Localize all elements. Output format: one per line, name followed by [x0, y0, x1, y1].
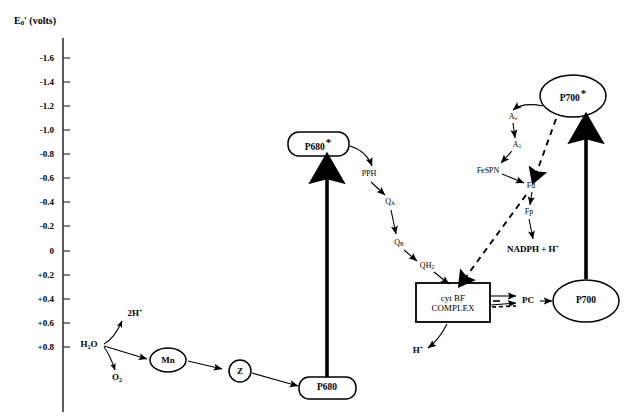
axis-title-text: E	[14, 15, 21, 26]
cyclic-flow-dashed-arrows	[463, 119, 556, 281]
axis-title-prime: ' (volts)	[24, 15, 56, 26]
ao-subscript: o	[515, 115, 518, 121]
node-label-p680-excited[interactable]: P680*	[305, 137, 332, 152]
nadph-text: NADPH + H	[507, 244, 556, 254]
axis-tick-label: -1.6	[18, 54, 54, 63]
axis-tick-label: +0.8	[18, 343, 54, 352]
carrier-label-qh2[interactable]: QH2	[420, 262, 434, 271]
proton-text: H	[413, 345, 420, 355]
arrow-z-to-p680	[252, 373, 298, 386]
nadph-superscript: +	[556, 244, 559, 250]
carrier-label-fespn[interactable]: FeSPN	[477, 167, 500, 175]
axis-tick-label: +0.2	[18, 271, 54, 280]
a1-subscript: 1	[519, 143, 522, 149]
chem-label-water: H2O	[80, 340, 97, 349]
axis-tick-label: -0.6	[18, 174, 54, 183]
axis-tick-label: -1.4	[18, 78, 54, 87]
p700-text: P700	[576, 295, 596, 305]
protons-text: 2H	[128, 308, 140, 318]
protons-superscript: +	[139, 308, 142, 314]
z-text: Z	[237, 366, 243, 376]
fp-text: Fp	[525, 207, 533, 216]
water-text: H	[80, 339, 87, 349]
axis-title: E0' (volts)	[14, 16, 56, 27]
cyt-bf-line1: cyt BF	[441, 293, 465, 303]
qh2-subscript: 2	[431, 264, 434, 270]
carrier-label-a1[interactable]: A1	[513, 141, 522, 150]
node-label-p680[interactable]: P680	[317, 383, 337, 393]
chem-label-proton: H+	[413, 345, 424, 355]
pc-text: PC	[522, 295, 534, 305]
arrow-cytbf-to-proton	[428, 324, 447, 348]
psii-electron-chain-arrows	[350, 146, 449, 284]
axis-tick-label: -0.2	[18, 222, 54, 231]
z-scheme-diagram: E0' (volts) -1.6-1.4-1.2-1.0-0.8-0.6-0.4…	[0, 0, 632, 420]
fd-text: Fd	[527, 181, 535, 190]
mn-text: Mn	[161, 355, 175, 365]
carrier-label-fd[interactable]: Fd	[527, 182, 535, 190]
water-text2: O	[91, 339, 98, 349]
fespn-text: FeSPN	[477, 166, 500, 175]
carrier-label-qb[interactable]: QB	[394, 239, 403, 248]
axis-tick-label: -0.8	[18, 150, 54, 159]
node-label-cyt-bf[interactable]: cyt BF COMPLEX	[431, 293, 474, 314]
axis-tick-label: -0.4	[18, 198, 54, 207]
cyt-bf-line2: COMPLEX	[431, 303, 474, 313]
axis-tick-label: 0	[18, 247, 54, 256]
oxygen-text: O	[112, 372, 119, 382]
axis-tick-label: +0.4	[18, 295, 54, 304]
dashed-cytbf-pc-link	[492, 306, 516, 307]
carrier-label-pc[interactable]: PC	[522, 296, 534, 305]
carrier-label-fp[interactable]: Fp	[525, 208, 533, 216]
axis-tick-label: -1.0	[18, 126, 54, 135]
axis-tick-label: +0.6	[18, 319, 54, 328]
p700-excited-text: P700	[560, 93, 580, 103]
chem-label-oxygen: O2	[112, 373, 122, 382]
proton-superscript: +	[420, 345, 423, 351]
pph-text: PPH	[362, 169, 377, 178]
axis-tick-label: -1.2	[18, 102, 54, 111]
qa-subscript: A	[391, 200, 395, 206]
node-label-p700[interactable]: P700	[576, 296, 596, 306]
qh2-text: QH	[420, 261, 432, 270]
carrier-label-ao[interactable]: Ao	[509, 113, 518, 122]
p700-excited-star: *	[581, 87, 586, 99]
y-axis	[63, 38, 70, 412]
node-label-mn[interactable]: Mn	[161, 356, 175, 365]
water-splitting-arrows	[104, 321, 147, 370]
p680-excited-text: P680	[305, 142, 325, 152]
qb-subscript: B	[400, 241, 404, 247]
chem-label-nadph: NADPH + H+	[507, 244, 559, 254]
arrow-mn-to-z	[188, 361, 222, 369]
p680-text: P680	[317, 382, 337, 392]
chem-label-2h-plus: 2H+	[128, 308, 143, 318]
p680-excited-star: *	[326, 136, 331, 148]
carrier-label-qa[interactable]: QA	[385, 198, 395, 207]
diagram-canvas	[0, 0, 632, 420]
oxygen-subscript: 2	[119, 377, 122, 383]
node-label-p700-excited[interactable]: P700*	[560, 88, 587, 103]
carrier-label-pph[interactable]: PPH	[362, 170, 377, 178]
node-label-z[interactable]: Z	[237, 367, 243, 376]
